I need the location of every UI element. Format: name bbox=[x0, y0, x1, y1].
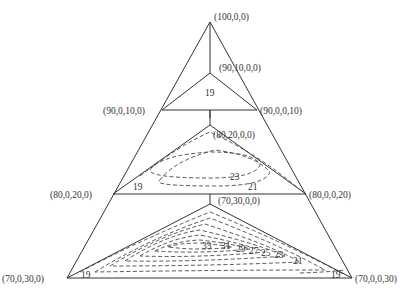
label-slice2-right: (80,0,0,20) bbox=[309, 190, 351, 201]
label-slice3-left: (70,0,30,0) bbox=[2, 274, 44, 285]
label-slice1-right: (90,0,0,10) bbox=[260, 106, 302, 117]
label-apex: (100,0,0) bbox=[214, 12, 249, 23]
contour-label: 19 bbox=[133, 182, 143, 192]
contour-label: 23 bbox=[274, 250, 284, 260]
contour-label: 19 bbox=[205, 88, 215, 98]
contour-label: 19 bbox=[81, 270, 91, 280]
contour-label: 21 bbox=[293, 256, 303, 266]
label-slice2-inner: (80,20,0,0) bbox=[213, 130, 255, 141]
label-slice3-right: (70,0,0,30) bbox=[355, 274, 397, 285]
contour-label: 33 bbox=[202, 241, 212, 251]
vertex-labels: (100,0,0) (90,10,0,0) (90,0,10,0) (90,0,… bbox=[2, 12, 397, 285]
label-slice1-left: (90,0,10,0) bbox=[103, 106, 145, 117]
label-slice3-inner: (70,30,0,0) bbox=[218, 196, 260, 207]
contour-label: 23 bbox=[230, 172, 240, 182]
ternary-diagram: (100,0,0) (90,10,0,0) (90,0,10,0) (90,0,… bbox=[0, 0, 411, 302]
label-slice2-left: (80,0,20,0) bbox=[50, 190, 92, 201]
contour-label: 31 bbox=[221, 241, 231, 251]
contour-label: 29 bbox=[236, 244, 246, 254]
contour-label: 25 bbox=[261, 248, 271, 258]
label-slice1-inner: (90,10,0,0) bbox=[219, 63, 261, 74]
contour-label: 21 bbox=[248, 182, 258, 192]
contour-label: 19 bbox=[331, 270, 341, 280]
contour-label: 27 bbox=[249, 246, 259, 256]
